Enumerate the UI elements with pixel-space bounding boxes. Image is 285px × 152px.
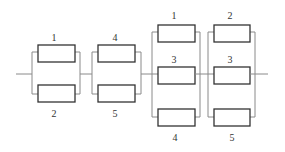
stage-2: 4 5 bbox=[92, 32, 141, 119]
block-label: 4 bbox=[173, 132, 178, 143]
block-label: 3 bbox=[172, 54, 177, 65]
block-label: 1 bbox=[52, 32, 57, 43]
block-stage4-5 bbox=[214, 109, 250, 126]
block-stage4-3 bbox=[214, 67, 250, 84]
block-stage3-4 bbox=[158, 109, 195, 126]
block-stage2-4 bbox=[98, 45, 135, 62]
block-label: 2 bbox=[52, 108, 57, 119]
block-stage2-5 bbox=[98, 85, 135, 102]
reliability-diagram: 1 2 4 5 1 3 4 bbox=[0, 0, 285, 152]
block-stage3-1 bbox=[158, 25, 195, 42]
block-stage1-2 bbox=[38, 85, 75, 102]
block-label: 5 bbox=[113, 108, 118, 119]
block-stage4-2 bbox=[214, 25, 250, 42]
stage-4: 2 3 5 bbox=[208, 10, 255, 143]
block-stage1-1 bbox=[38, 45, 75, 62]
block-label: 4 bbox=[113, 32, 118, 43]
stage-1: 1 2 bbox=[32, 32, 80, 119]
block-label: 3 bbox=[228, 54, 233, 65]
stage-3: 1 3 4 bbox=[152, 10, 200, 143]
block-label: 5 bbox=[230, 132, 235, 143]
block-label: 1 bbox=[172, 10, 177, 21]
block-label: 2 bbox=[228, 10, 233, 21]
block-stage3-3 bbox=[158, 67, 195, 84]
